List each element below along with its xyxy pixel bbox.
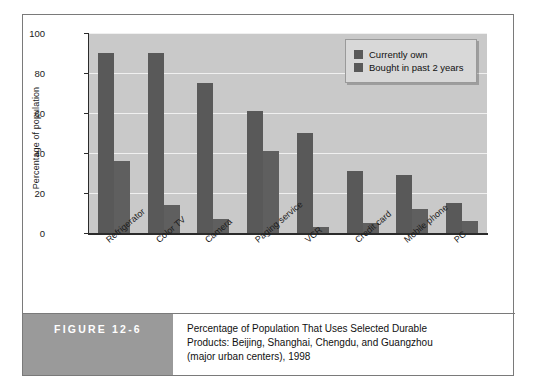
y-tick-label: 60: [5, 108, 45, 119]
figure-label-block: FIGURE 12-6: [23, 314, 173, 375]
caption-line: (major urban centers), 1998: [187, 350, 505, 364]
x-axis-line: [88, 233, 488, 235]
bar-currently-own: [148, 53, 164, 233]
bar-group: [197, 33, 229, 233]
bar-currently-own: [297, 133, 313, 233]
caption-text-block: Percentage of Population That Uses Selec…: [173, 314, 515, 375]
legend-item: Currently own: [354, 49, 464, 60]
bar-currently-own: [247, 111, 263, 233]
y-tick-mark: [84, 233, 89, 234]
bar-currently-own: [347, 171, 363, 233]
caption-line: Percentage of Population That Uses Selec…: [187, 322, 505, 336]
legend-item: Bought in past 2 years: [354, 62, 464, 73]
legend-swatch-currently-own: [354, 50, 363, 59]
y-tick-label: 80: [5, 68, 45, 79]
y-tick-label: 40: [5, 148, 45, 159]
y-tick-label: 100: [5, 28, 45, 39]
bar-group: [148, 33, 180, 233]
figure-container: Percentage of population 020406080100 Re…: [22, 14, 514, 376]
legend-swatch-bought-past-2-years: [354, 63, 363, 72]
x-axis-labels: RefrigeratorColor TVCameraPaging service…: [89, 237, 487, 313]
caption-band: FIGURE 12-6 Percentage of Population Tha…: [23, 313, 515, 375]
bar-currently-own: [197, 83, 213, 233]
bar-group: [98, 33, 130, 233]
legend-label-currently-own: Currently own: [369, 49, 428, 60]
bar-currently-own: [396, 175, 412, 233]
caption-line: Products: Beijing, Shanghai, Chengdu, an…: [187, 336, 505, 350]
y-tick-label: 20: [5, 188, 45, 199]
chart-area: Percentage of population 020406080100 Re…: [23, 15, 515, 315]
legend: Currently own Bought in past 2 years: [345, 39, 477, 83]
figure-label: FIGURE 12-6: [54, 323, 142, 335]
bar-currently-own: [98, 53, 114, 233]
y-tick-label: 0: [5, 228, 45, 239]
bar-group: [247, 33, 279, 233]
legend-label-bought-past-2-years: Bought in past 2 years: [369, 62, 464, 73]
